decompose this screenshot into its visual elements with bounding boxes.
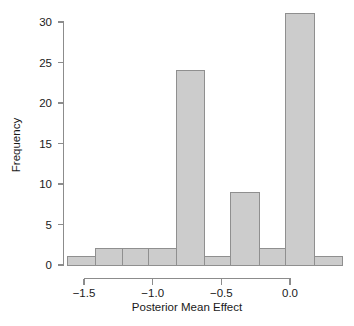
y-axis-title: Frequency	[10, 118, 22, 173]
histogram-bar	[286, 14, 315, 265]
histogram-plot: 051015202530 −1.5−1.0−0.50.0 Posterior M…	[0, 0, 354, 326]
histogram-bar	[231, 192, 260, 265]
histogram-bar	[95, 249, 123, 265]
x-tick-label: −1.0	[141, 287, 164, 299]
x-tick-label: 0.0	[282, 287, 298, 299]
histogram-bar	[68, 257, 96, 265]
x-axis-ticks: −1.5−1.0−0.50.0	[73, 279, 298, 300]
y-axis-ticks: 051015202530	[39, 16, 63, 271]
y-tick-label: 10	[39, 178, 52, 190]
x-axis-title: Posterior Mean Effect	[132, 301, 243, 313]
y-tick-label: 25	[39, 57, 52, 69]
histogram-bar	[176, 71, 205, 265]
y-tick-label: 5	[46, 219, 52, 231]
histogram-bars	[68, 14, 343, 265]
histogram-bar	[260, 249, 286, 265]
histogram-bar	[205, 257, 231, 265]
y-tick-label: 20	[39, 97, 52, 109]
y-tick-label: 0	[46, 259, 52, 271]
chart-canvas: 051015202530 −1.5−1.0−0.50.0 Posterior M…	[0, 0, 354, 326]
x-tick-label: −1.5	[73, 287, 96, 299]
histogram-bar	[315, 257, 343, 265]
x-tick-label: −0.5	[210, 287, 233, 299]
histogram-bar	[149, 249, 177, 265]
y-tick-label: 30	[39, 16, 52, 28]
y-tick-label: 15	[39, 138, 52, 150]
histogram-bar	[123, 249, 149, 265]
